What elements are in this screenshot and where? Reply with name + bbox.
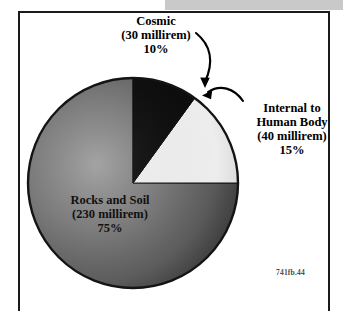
- slice-label-rocks-percent: 75%: [48, 221, 172, 235]
- slice-label-cosmic-name: Cosmic: [96, 14, 216, 28]
- slice-label-internal-to-human-body: Internal to Human Body (40 millirem) 15%: [240, 101, 343, 157]
- slice-label-cosmic: Cosmic (30 millirem) 10%: [96, 14, 216, 56]
- slice-label-cosmic-amount: (30 millirem): [96, 28, 216, 42]
- slice-label-rocks-and-soil: Rocks and Soil (230 millirem) 75%: [48, 193, 172, 235]
- slice-label-cosmic-percent: 10%: [96, 42, 216, 56]
- slice-label-rocks-name: Rocks and Soil: [48, 193, 172, 207]
- pie-outer-rim: [28, 78, 238, 288]
- slice-label-internal-name-line2: Human Body: [240, 115, 343, 129]
- slice-label-internal-name-line1: Internal to: [240, 101, 343, 115]
- slice-label-internal-amount: (40 millirem): [240, 129, 343, 143]
- slice-label-internal-percent: 15%: [240, 143, 343, 157]
- figure-page: Cosmic (30 millirem) 10% Internal to Hum…: [0, 0, 343, 311]
- figure-code-text: 741fb.44: [276, 268, 305, 277]
- slice-label-rocks-amount: (230 millirem): [48, 207, 172, 221]
- callout-arrow-internal: [208, 88, 243, 101]
- callout-arrowhead-cosmic: [200, 78, 210, 88]
- pie-chart: Cosmic (30 millirem) 10% Internal to Hum…: [0, 0, 343, 311]
